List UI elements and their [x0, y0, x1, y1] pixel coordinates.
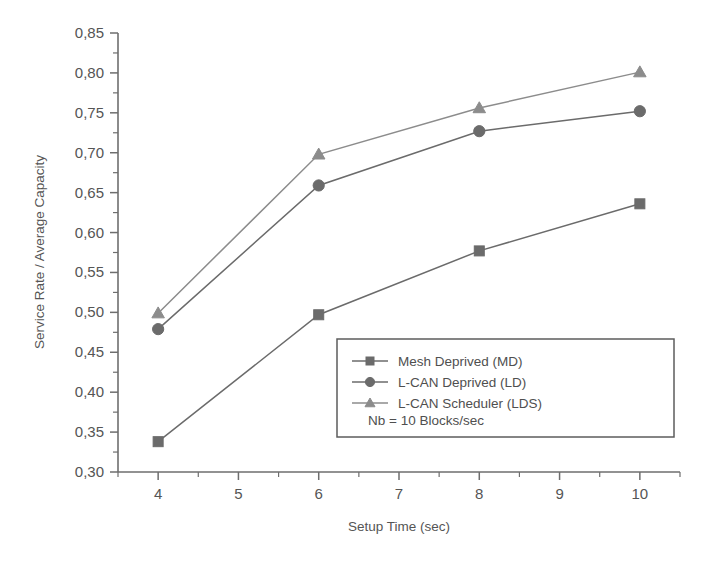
y-tick-label: 0,50 — [75, 303, 104, 320]
marker-square — [314, 310, 324, 320]
y-tick-label: 0,80 — [75, 64, 104, 81]
x-tick-label: 8 — [475, 485, 483, 502]
marker-square — [366, 357, 374, 365]
y-tick-label: 0,85 — [75, 24, 104, 41]
x-axis-title: Setup Time (sec) — [348, 519, 450, 534]
marker-circle — [153, 324, 164, 335]
x-tick-label: 7 — [395, 485, 403, 502]
chart-svg: 0,300,350,400,450,500,550,600,650,700,75… — [0, 0, 709, 564]
x-tick-label: 10 — [632, 485, 649, 502]
legend-item-label: Mesh Deprived (MD) — [398, 354, 523, 369]
x-tick-label: 6 — [315, 485, 323, 502]
y-tick-label: 0,45 — [75, 343, 104, 360]
chart-figure: 0,300,350,400,450,500,550,600,650,700,75… — [0, 0, 709, 564]
x-tick-label: 9 — [555, 485, 563, 502]
marker-square — [474, 246, 484, 256]
legend-note: Nb = 10 Blocks/sec — [368, 413, 484, 428]
y-axis-title: Service Rate / Average Capacity — [32, 155, 47, 349]
marker-circle — [634, 106, 645, 117]
series-line — [158, 72, 640, 313]
data-series — [152, 66, 646, 318]
legend: Mesh Deprived (MD)L-CAN Deprived (LD)L-C… — [337, 339, 674, 437]
x-tick-label: 5 — [234, 485, 242, 502]
marker-circle — [365, 377, 374, 386]
y-tick-label: 0,75 — [75, 104, 104, 121]
x-axis-tick-labels: 45678910 — [154, 485, 648, 502]
y-axis-ticks — [110, 33, 118, 472]
marker-circle — [313, 180, 324, 191]
x-axis-ticks — [118, 472, 680, 480]
x-tick-label: 4 — [154, 485, 162, 502]
marker-circle — [474, 126, 485, 137]
y-tick-label: 0,40 — [75, 383, 104, 400]
y-tick-label: 0,65 — [75, 184, 104, 201]
y-tick-label: 0,30 — [75, 463, 104, 480]
marker-square — [635, 199, 645, 209]
y-tick-label: 0,60 — [75, 224, 104, 241]
legend-item-label: L-CAN Scheduler (LDS) — [398, 396, 542, 411]
data-series — [153, 106, 646, 335]
y-tick-label: 0,35 — [75, 423, 104, 440]
legend-item-label: L-CAN Deprived (LD) — [398, 375, 526, 390]
y-tick-label: 0,55 — [75, 263, 104, 280]
marker-square — [153, 437, 163, 447]
y-tick-label: 0,70 — [75, 144, 104, 161]
y-axis-tick-labels: 0,300,350,400,450,500,550,600,650,700,75… — [75, 24, 104, 480]
series-line — [158, 111, 640, 329]
marker-triangle — [634, 66, 647, 77]
